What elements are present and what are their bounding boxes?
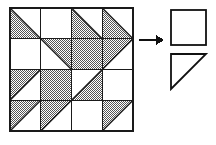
full-shaded-square [72, 39, 103, 70]
quilt-cell [41, 70, 72, 101]
full-shaded-square [41, 70, 72, 101]
quilt-grid [10, 8, 133, 131]
figure-root [0, 0, 216, 145]
quilt-cell [72, 39, 103, 70]
figure-canvas [0, 0, 216, 145]
